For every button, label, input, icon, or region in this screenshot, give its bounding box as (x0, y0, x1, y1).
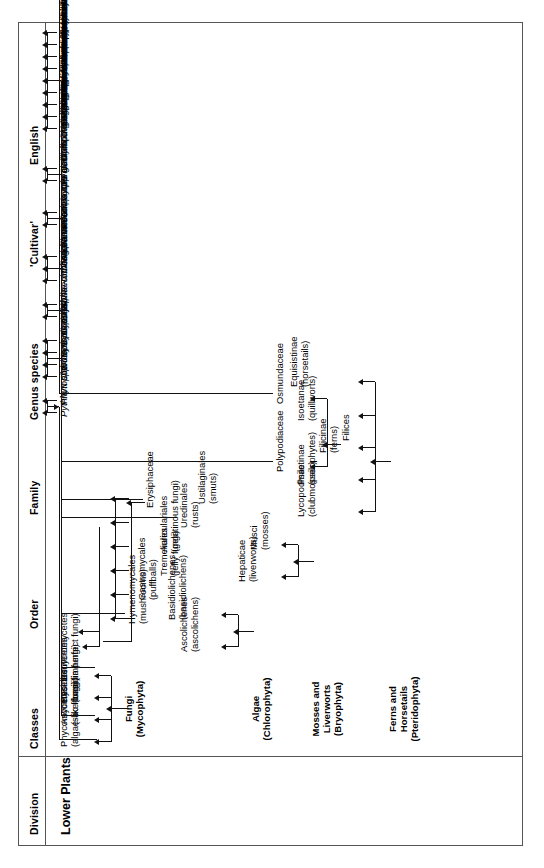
connector (115, 594, 129, 595)
connector (47, 128, 57, 129)
connector (59, 407, 60, 740)
connector-arrow (221, 644, 226, 650)
connector (363, 511, 375, 512)
connector (47, 212, 57, 213)
connector (99, 719, 111, 720)
connector (115, 522, 129, 523)
connector (115, 570, 129, 571)
column-header-order: Order (28, 599, 40, 629)
section-label: Lower Plants (59, 757, 73, 835)
connector (61, 81, 62, 462)
column-header-family: Family (28, 481, 40, 515)
division-mosses-liverworts: Mosses and Liverworts (Bryophyta) (310, 669, 343, 749)
rotated-chart-stage: Division Classes Order Family Genus spec… (0, 0, 544, 868)
connector-arrow (358, 477, 363, 483)
connector-arrow (94, 695, 99, 701)
order-filices: Filices (341, 414, 352, 441)
connector (61, 461, 273, 462)
connector (87, 646, 99, 647)
connector-arrow (82, 644, 87, 650)
connector-arrow (358, 379, 363, 385)
connector (99, 675, 111, 676)
connector (375, 382, 376, 512)
connector (47, 168, 57, 169)
connector (99, 697, 111, 698)
column-header-classes: Classes (28, 708, 40, 749)
connector-arrow (358, 509, 363, 515)
connector (375, 461, 391, 462)
connector (363, 479, 375, 480)
connector (61, 667, 95, 668)
connector (47, 224, 57, 225)
connector (61, 715, 95, 716)
connector-arrow (310, 396, 315, 402)
species-name: Polystichum ucrostichoides (59, 0, 70, 37)
connector (47, 44, 57, 45)
connector (47, 400, 57, 401)
connector (59, 393, 273, 394)
family-erysiphaceae: Erysiphaceae (145, 451, 156, 508)
division-ferns-horsetails: Ferns and Horsetails (Pteridophyta) (387, 669, 420, 749)
connector (238, 615, 239, 647)
connector (47, 116, 57, 117)
connector (298, 545, 299, 577)
connector (47, 257, 48, 281)
connector (327, 444, 341, 445)
family-osmundaceae: Osmundaceae (275, 343, 286, 404)
class-musci: Musci (mosses) (249, 511, 270, 550)
connector (47, 352, 57, 353)
connector-arrow (281, 542, 286, 548)
division-fungi: Fungi (Mycophyta) (123, 669, 145, 749)
connector (131, 502, 132, 642)
order-ustilaginales: Ustilaginales (smuts) (197, 451, 218, 504)
connector (47, 305, 48, 317)
connector (47, 68, 57, 69)
connector (298, 561, 314, 562)
connector-arrow (94, 673, 99, 679)
connector (47, 340, 57, 341)
connector (47, 256, 57, 257)
connector (47, 180, 57, 181)
connector-arrow (78, 629, 83, 635)
connector (47, 304, 57, 305)
connector (99, 527, 100, 647)
connector (226, 646, 238, 647)
connector-arrow (358, 413, 363, 419)
connector-arrow (221, 612, 226, 618)
connector (47, 169, 48, 181)
connector (286, 544, 298, 545)
connector-arrow (281, 574, 286, 580)
connector (111, 708, 129, 709)
connector (47, 33, 48, 129)
connector (315, 398, 327, 399)
connector (61, 517, 177, 518)
connector (47, 213, 48, 225)
order-gastromycales: Gastromycales (puffballs) (137, 537, 158, 600)
connector (59, 0, 60, 394)
header-rule (45, 23, 46, 845)
chart-frame: Division Classes Order Family Genus spec… (18, 22, 523, 846)
connector (47, 364, 57, 365)
column-header-genus-species: Genus species (28, 343, 40, 420)
connector (47, 376, 57, 377)
connector (61, 613, 125, 614)
connector (47, 32, 57, 33)
connector (47, 412, 57, 413)
connector (47, 104, 57, 105)
connector (111, 676, 112, 742)
connector (327, 399, 328, 467)
connector (47, 401, 48, 413)
connector (131, 502, 145, 503)
column-header-english: English (28, 126, 40, 165)
connector (47, 280, 57, 281)
column-header-division: Division (28, 793, 40, 835)
connector (115, 546, 129, 547)
column-header-cultivar: 'Cultivar' (28, 221, 40, 267)
family-polypodiaceae: Polypodiaceae (275, 410, 286, 472)
class-psilotinae: Psilotinae (psilophytes) (296, 432, 317, 485)
connector (61, 499, 143, 500)
connector (226, 614, 238, 615)
class-equisistinae: Equisistinae (horsetails) (289, 336, 310, 387)
connector (286, 576, 298, 577)
division-algae: Algae (Chlorophyta) (250, 669, 272, 749)
